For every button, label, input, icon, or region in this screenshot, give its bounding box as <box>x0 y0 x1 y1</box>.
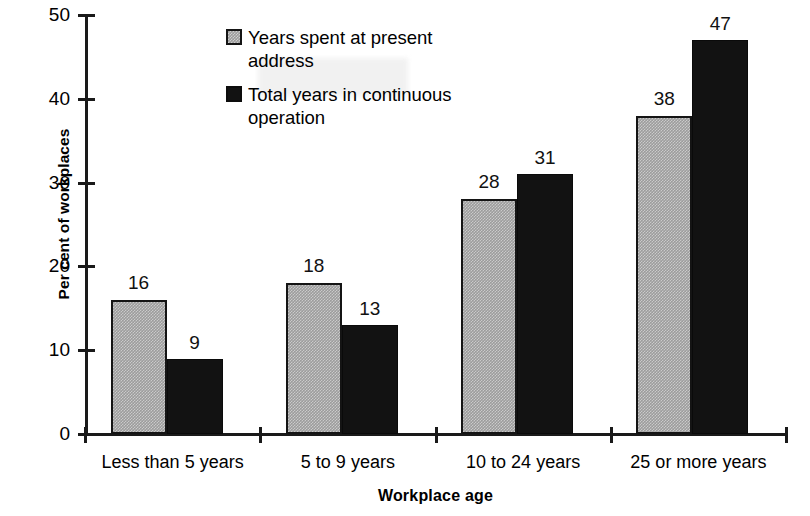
legend-swatch-black-square-icon <box>226 86 242 102</box>
bar: 13 <box>342 325 398 434</box>
y-axis-tick-label: 0 <box>8 424 70 443</box>
y-axis-tick-label: 30 <box>8 173 70 192</box>
bar: 47 <box>692 40 748 434</box>
clipped-title-remnant: g p g <box>40 0 340 5</box>
bar: 18 <box>286 283 342 434</box>
bar: 28 <box>461 199 517 434</box>
x-axis-category-label: Less than 5 years <box>85 452 260 472</box>
bar-value-label: 18 <box>303 256 324 275</box>
x-axis-category-label: 5 to 9 years <box>260 452 435 472</box>
bar-group: 3847 <box>611 15 786 434</box>
bar-value-label: 31 <box>535 148 556 167</box>
y-axis-tick-label: 50 <box>8 5 70 24</box>
y-axis-tick-label: 20 <box>8 256 70 275</box>
bar-value-label: 16 <box>128 273 149 292</box>
bar: 9 <box>167 359 223 434</box>
x-axis-title: Workplace age <box>85 487 786 505</box>
bar-value-label: 38 <box>654 89 675 108</box>
legend-item: Total years in continuous operation <box>226 83 478 129</box>
legend-item: Years spent at present address <box>226 26 478 72</box>
legend-item-label: Years spent at present address <box>248 26 478 72</box>
legend-swatch-gray-square-icon <box>226 29 242 45</box>
legend-item-label: Total years in continuous operation <box>248 83 478 129</box>
bar: 16 <box>111 300 167 434</box>
bar-value-label: 9 <box>189 333 200 352</box>
bar-value-label: 47 <box>710 14 731 33</box>
bar: 31 <box>517 174 573 434</box>
bar-chart: g p g Per cent of workplaces 01020304050… <box>0 0 810 516</box>
y-axis-tick-label: 40 <box>8 89 70 108</box>
bar-value-label: 13 <box>359 299 380 318</box>
chart-legend: Years spent at present address Total yea… <box>226 26 478 140</box>
y-axis-tick-label: 10 <box>8 340 70 359</box>
x-axis-category-label: 25 or more years <box>611 452 786 472</box>
x-axis-category-label: 10 to 24 years <box>436 452 611 472</box>
bar-value-label: 28 <box>479 172 500 191</box>
bar: 38 <box>636 116 692 434</box>
